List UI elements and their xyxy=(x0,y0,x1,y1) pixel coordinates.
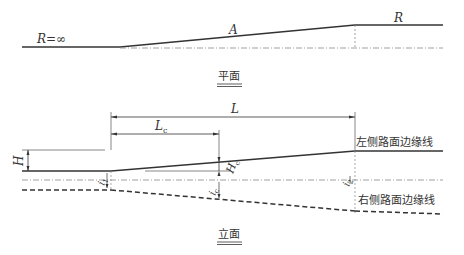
arrow-down-icon xyxy=(218,157,221,162)
arrow-left-icon xyxy=(111,133,117,136)
arrow-left-icon xyxy=(111,116,117,119)
arrow-up-icon xyxy=(218,171,221,176)
label-lc: Lc xyxy=(154,119,168,135)
right-edge-label: 右侧路面边缘线 xyxy=(358,193,435,207)
label-r: R xyxy=(393,11,403,25)
arrow-right-icon xyxy=(349,116,355,119)
label-h: H xyxy=(12,155,26,167)
elevation-view: L Lc H 左侧路面边缘线 Hc 右侧路面边缘线 xyxy=(12,102,443,245)
superelevation-transition-diagram: R=∞ A R 平面 L Lc H 左侧路面边缘线 xyxy=(0,0,464,255)
arrow-right-icon xyxy=(213,133,219,136)
label-r-infinity: R=∞ xyxy=(36,32,66,46)
label-i1: i1 xyxy=(96,176,111,188)
plan-caption: 平面 xyxy=(218,70,240,83)
right-edge-curve xyxy=(355,211,443,214)
label-i2: i2 xyxy=(341,177,356,189)
label-l: L xyxy=(230,102,239,116)
left-edge-label: 左侧路面边缘线 xyxy=(356,135,433,149)
right-edge-transition xyxy=(111,190,355,211)
arrow-up-icon xyxy=(27,150,30,155)
label-a: A xyxy=(228,23,238,37)
plan-view: R=∞ A R 平面 xyxy=(22,11,443,87)
elevation-caption: 立面 xyxy=(218,227,240,241)
